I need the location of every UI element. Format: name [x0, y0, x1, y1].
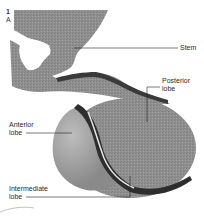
pituitary-illustration: [0, 0, 204, 216]
stem-label: Stem: [180, 44, 196, 52]
intermediate-lobe-label: Intermediate lobe: [9, 185, 48, 201]
anterior-lobe-label: Anterior lobe: [9, 121, 34, 137]
posterior-lobe-label: Posterior lobe: [162, 77, 190, 93]
